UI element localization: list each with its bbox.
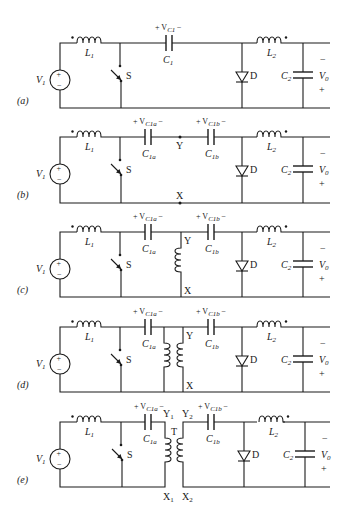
- svg-text:−: −: [320, 243, 326, 254]
- capacitor-c2: C2: [281, 232, 313, 297]
- svg-text:+ VC1a−: + VC1a−: [133, 117, 163, 128]
- diode-d: D: [236, 43, 257, 108]
- switch-s: S: [111, 137, 132, 203]
- svg-text:−: −: [57, 460, 62, 469]
- switch-s: S: [111, 327, 132, 392]
- svg-text:−: −: [320, 54, 326, 65]
- svg-text:C1b: C1b: [206, 433, 220, 446]
- svg-text:V0: V0: [319, 354, 329, 367]
- svg-text:V0: V0: [319, 164, 329, 177]
- svg-text:D: D: [250, 259, 257, 270]
- svg-text:+: +: [57, 449, 62, 458]
- wire: [60, 422, 77, 449]
- svg-text:C2: C2: [281, 70, 292, 83]
- output-voltage-label: − V0 +: [319, 338, 329, 379]
- panel-label: (b): [17, 189, 29, 201]
- voltage-source-v1: + −: [50, 449, 70, 469]
- output-voltage-label: − V0 +: [321, 433, 331, 474]
- diode-d: D: [236, 137, 257, 203]
- capacitor-c1b: C1b + VC1b−: [198, 402, 228, 446]
- capacitor-c1a: C1a + VC1a−: [133, 212, 163, 256]
- switch-s: S: [111, 232, 132, 297]
- panel-label: (d): [17, 379, 29, 391]
- l1-label: L1: [84, 426, 94, 439]
- capacitor-c1b: C1b + VC1b−: [196, 307, 226, 351]
- node-x2-label: X2: [182, 491, 193, 504]
- node-x1-label: X1: [163, 491, 174, 504]
- svg-text:C1a: C1a: [142, 243, 156, 256]
- svg-text:T: T: [171, 426, 177, 437]
- polarity-dot: [287, 415, 289, 417]
- node-y-label: Y: [186, 330, 193, 341]
- node-y2-label: Y2: [182, 408, 193, 421]
- l1-label: L1: [84, 47, 94, 60]
- svg-text:D: D: [250, 164, 257, 175]
- source-label: V1: [36, 74, 46, 87]
- svg-text:+ VC1b−: + VC1b−: [198, 402, 228, 413]
- svg-text:D: D: [250, 70, 257, 81]
- svg-text:C1b: C1b: [205, 148, 219, 161]
- svg-text:+ VC1b−: + VC1b−: [196, 212, 226, 223]
- switch-s: S: [112, 422, 133, 487]
- polarity-dot: [71, 130, 73, 132]
- capacitor-c1b: C1b + VC1b−: [196, 212, 226, 256]
- inductor-l1: [77, 131, 103, 137]
- inductor-l1: [77, 321, 103, 327]
- svg-text:+ VC1−: + VC1−: [155, 23, 182, 34]
- svg-text:+ VC1a−: + VC1a−: [134, 402, 164, 413]
- svg-text:V0: V0: [321, 449, 331, 462]
- svg-text:+: +: [319, 84, 325, 95]
- svg-text:C1a: C1a: [142, 338, 156, 351]
- svg-text:C2: C2: [281, 354, 292, 367]
- diode-d: D: [238, 422, 259, 487]
- svg-text:+ VC1b−: + VC1b−: [196, 307, 226, 318]
- shunt-inductor: [175, 246, 181, 276]
- svg-text:−: −: [57, 175, 62, 184]
- wire: [151, 422, 165, 436]
- shunt-inductor-left: [164, 341, 170, 371]
- circuit-d: + − V1 L1 S C1a + VC1a− Y X: [17, 307, 330, 392]
- l1-label: L1: [84, 141, 94, 154]
- svg-text:+: +: [319, 178, 325, 189]
- capacitor-c2: C2: [281, 137, 313, 203]
- node-y-label: Y: [176, 140, 183, 151]
- circuit-a: + − V1 L1 S C1 + VC1−: [17, 23, 330, 108]
- svg-text:S: S: [126, 259, 132, 270]
- wire: [60, 43, 77, 70]
- svg-text:+: +: [57, 259, 62, 268]
- switch-s: S: [111, 43, 132, 108]
- voltage-source-v1: + −: [50, 354, 70, 374]
- inductor-l2: [257, 131, 283, 137]
- svg-text:−: −: [322, 433, 328, 444]
- polarity-dot: [71, 225, 73, 227]
- l2-label: L2: [268, 426, 279, 439]
- capacitor-c1: C1 + VC1−: [155, 23, 182, 67]
- svg-text:D: D: [250, 354, 257, 365]
- svg-text:−: −: [57, 81, 62, 90]
- output-voltage-label: − V0 +: [319, 148, 329, 189]
- source-label: V1: [36, 263, 46, 276]
- svg-text:+: +: [319, 368, 325, 379]
- svg-text:S: S: [127, 449, 133, 460]
- capacitor-c1b: C1b + VC1b−: [196, 117, 226, 161]
- wire: [183, 422, 208, 436]
- converter-derivation-diagram: + − V1 L1 S C1 + VC1−: [0, 0, 347, 518]
- wire: [60, 327, 77, 354]
- panel-label: (c): [17, 284, 29, 296]
- transformer-t: T: [165, 426, 183, 466]
- source-label: V1: [36, 168, 46, 181]
- svg-text:+ VC1a−: + VC1a−: [133, 212, 163, 223]
- panel-label: (e): [17, 474, 29, 486]
- polarity-dot: [71, 36, 73, 38]
- voltage-source-v1: + −: [50, 70, 70, 90]
- polarity-dot: [285, 130, 287, 132]
- wire: [60, 137, 77, 164]
- svg-text:−: −: [320, 338, 326, 349]
- node-x-label: X: [186, 380, 194, 391]
- source-label: V1: [36, 453, 46, 466]
- output-voltage-label: − V0 +: [319, 54, 329, 95]
- svg-text:C2: C2: [283, 449, 294, 462]
- node-y-label: Y: [184, 235, 191, 246]
- l2-label: L2: [266, 331, 277, 344]
- wire: [60, 184, 330, 203]
